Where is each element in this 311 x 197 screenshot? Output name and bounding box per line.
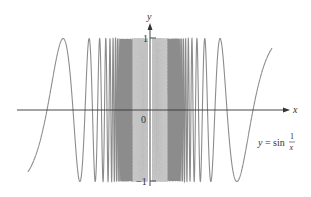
origin-label: 0 xyxy=(141,114,146,125)
annotation-frac-den: x xyxy=(289,143,294,152)
x-axis-label: x xyxy=(292,104,298,115)
svg-text:y = sin: y = sin xyxy=(257,137,285,148)
x-axis-arrow-icon xyxy=(283,108,290,113)
function-annotation: y = sin 1 x xyxy=(257,132,295,152)
y-axis-arrow-icon xyxy=(148,23,153,30)
y-axis-label: y xyxy=(146,11,152,22)
annotation-frac-num: 1 xyxy=(290,132,294,141)
sin-one-over-x-plot: y x 1 −1 0 y = sin 1 x xyxy=(0,0,311,197)
y-tick-label-bottom: −1 xyxy=(136,176,147,187)
y-tick-label-top: 1 xyxy=(143,33,148,44)
